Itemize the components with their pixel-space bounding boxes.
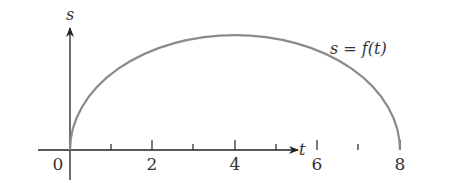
tick-label-8: 8 — [395, 154, 406, 174]
tick-label-4: 4 — [230, 154, 241, 174]
tick-label-2: 2 — [147, 154, 158, 174]
position-function-graph: 0 2 4 6 8 t s s = f(t) — [0, 0, 471, 183]
tick-label-0: 0 — [53, 154, 64, 174]
s-axis-label: s — [66, 5, 74, 24]
tick-label-6: 6 — [312, 154, 323, 174]
t-axis-label: t — [299, 140, 306, 159]
tick-marks — [111, 140, 400, 150]
curve-label: s = f(t) — [330, 39, 387, 58]
